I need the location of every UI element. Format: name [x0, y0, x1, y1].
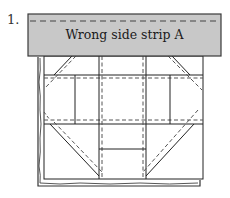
backing-wavy-edge — [39, 58, 198, 184]
diag-bottom-left-seam — [54, 122, 102, 172]
diag-top-left — [54, 56, 72, 75]
backing-edge — [38, 57, 200, 186]
diag-top-left-seam — [45, 56, 76, 88]
diag-bottom-left — [50, 124, 99, 176]
block-outline — [44, 56, 203, 179]
diag-bottom-right — [146, 124, 194, 176]
strip-a-label: Wrong side strip A — [28, 27, 221, 42]
diag-top-right-seam — [168, 56, 202, 90]
left-mid-seam-tick — [44, 112, 50, 120]
diag-top-right — [172, 56, 190, 75]
quilt-block — [38, 56, 203, 186]
